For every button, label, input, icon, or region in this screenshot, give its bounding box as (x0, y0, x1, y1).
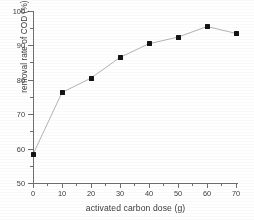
data-point-marker (205, 24, 210, 29)
data-point-marker (118, 55, 123, 60)
chart-figure: 100 90 80 70 60 50 0 10 20 30 40 50 60 7… (0, 0, 254, 220)
data-point-marker (89, 76, 94, 81)
y-axis-title: removal rate of COD (%) (20, 0, 29, 117)
data-point-marker (31, 152, 36, 157)
data-point-marker (234, 31, 239, 36)
data-point-marker (147, 41, 152, 46)
x-axis-title: activated carbon dose (g) (33, 203, 238, 213)
data-series-line (0, 0, 254, 220)
data-point-marker (176, 35, 181, 40)
data-point-marker (60, 90, 65, 95)
